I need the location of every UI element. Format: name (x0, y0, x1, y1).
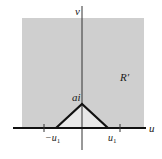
region-label: R′ (119, 71, 130, 83)
v-axis-label: v (75, 5, 80, 17)
tick-label-u1: u1 (108, 132, 117, 145)
tick-label-minus-u1: −u1 (45, 132, 61, 145)
conformal-map-diagram: v u R′ ai −u1 u1 (0, 0, 162, 159)
apex-label: ai (72, 91, 81, 103)
u-axis-label: u (149, 122, 155, 134)
